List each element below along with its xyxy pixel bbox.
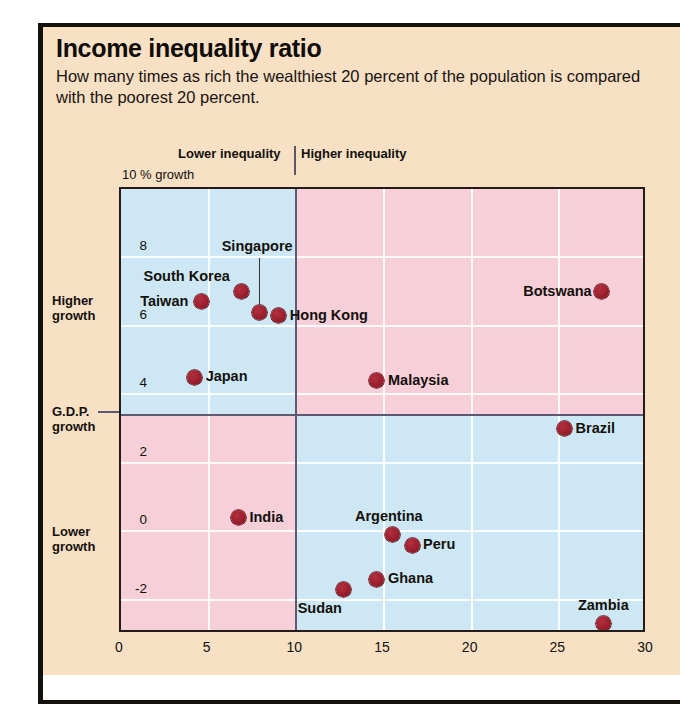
- x-tick-label: 5: [192, 639, 222, 655]
- growth-unit-label: 10 % growth: [122, 167, 194, 182]
- x-tick-label: 25: [542, 639, 572, 655]
- gdp-growth-leader-line: [98, 411, 120, 413]
- data-label-zambia: Zambia: [578, 597, 629, 613]
- gridline-horizontal: [121, 462, 643, 464]
- data-point-zambia[interactable]: [596, 616, 611, 631]
- leader-line-singapore: [259, 258, 261, 305]
- data-point-botswana[interactable]: [594, 284, 609, 299]
- gridline-horizontal: [121, 256, 643, 258]
- data-point-india[interactable]: [231, 510, 246, 525]
- data-label-ghana: Ghana: [388, 570, 433, 586]
- data-label-india: India: [249, 509, 283, 525]
- data-label-taiwan: Taiwan: [140, 293, 188, 309]
- higher-inequality-label: Higher inequality: [301, 146, 406, 161]
- data-point-japan[interactable]: [187, 370, 202, 385]
- chart-figure: Income inequality ratio How many times a…: [0, 0, 697, 722]
- data-label-japan: Japan: [206, 368, 248, 384]
- y-tick-label: 8: [121, 238, 147, 253]
- y-tick-label: 2: [121, 444, 147, 459]
- data-label-peru: Peru: [423, 536, 455, 552]
- gdp-growth-label: G.D.P. growth: [52, 404, 95, 434]
- x-tick-label: 30: [630, 639, 660, 655]
- gridline-vertical: [558, 189, 560, 630]
- lower-inequality-label: Lower inequality: [178, 146, 281, 161]
- gridline-vertical: [383, 189, 385, 630]
- left-rule: [38, 675, 43, 702]
- y-tick-label: 0: [121, 512, 147, 527]
- data-label-singapore: Singapore: [222, 238, 293, 254]
- chart-subtitle: How many times as rich the wealthiest 20…: [56, 66, 646, 108]
- inequality-divider: [294, 146, 296, 175]
- gridline-vertical: [471, 189, 473, 630]
- gridline-horizontal: [121, 530, 643, 532]
- inequality-divider-line: [295, 189, 297, 630]
- data-label-brazil: Brazil: [576, 420, 616, 436]
- lower-growth-label: Lower growth: [52, 524, 95, 554]
- x-tick-label: 10: [279, 639, 309, 655]
- gridline-horizontal: [121, 393, 643, 395]
- data-point-peru[interactable]: [405, 538, 420, 553]
- data-label-malaysia: Malaysia: [388, 372, 448, 388]
- data-label-argentina: Argentina: [355, 508, 423, 524]
- y-tick-label: 4: [121, 375, 147, 390]
- higher-growth-label: Higher growth: [52, 293, 95, 323]
- bottom-rule: [38, 700, 680, 704]
- gridline-horizontal: [121, 325, 643, 327]
- y-tick-label: 6: [121, 307, 147, 322]
- x-tick-label: 15: [367, 639, 397, 655]
- data-label-botswana: Botswana: [523, 283, 592, 299]
- chart-title: Income inequality ratio: [56, 34, 321, 63]
- data-label-south-korea: South Korea: [144, 268, 230, 284]
- data-point-singapore[interactable]: [252, 305, 267, 320]
- gdp-growth-divider-line: [121, 414, 643, 416]
- y-tick-label: -2: [121, 581, 147, 596]
- data-label-hong-kong: Hong Kong: [290, 307, 368, 323]
- x-tick-label: 0: [104, 639, 134, 655]
- gridline-horizontal: [121, 599, 643, 601]
- plot-area: TaiwanSouth KoreaSingaporeHong KongJapan…: [119, 187, 645, 632]
- gridline-vertical: [208, 189, 210, 630]
- x-tick-label: 20: [455, 639, 485, 655]
- data-label-sudan: Sudan: [298, 600, 342, 616]
